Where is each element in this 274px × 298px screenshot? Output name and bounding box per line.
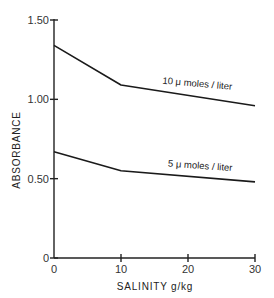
x-tick-label: 30	[249, 263, 261, 275]
tick-labels: 00.501.001.500102030	[28, 14, 262, 275]
x-tick-label: 20	[182, 263, 194, 275]
x-axis-title: SALINITY g/kg	[117, 281, 193, 292]
series-labels: 10 μ moles / liter5 μ moles / liter	[162, 75, 233, 173]
y-tick-label: 1.50	[28, 14, 49, 26]
y-tick-label: 0.50	[28, 173, 49, 185]
x-tick-label: 0	[51, 263, 57, 275]
absorbance-vs-salinity-chart: 00.501.001.500102030 10 μ moles / liter5…	[0, 0, 274, 298]
axes	[50, 19, 255, 262]
y-tick-label: 1.00	[28, 93, 49, 105]
y-tick-label: 0	[43, 252, 49, 264]
series-label: 10 μ moles / liter	[162, 75, 233, 92]
series-label: 5 μ moles / liter	[168, 158, 233, 173]
series-line	[54, 45, 255, 105]
y-axis-title: ABSORBANCE	[11, 111, 22, 188]
x-tick-label: 10	[115, 263, 127, 275]
